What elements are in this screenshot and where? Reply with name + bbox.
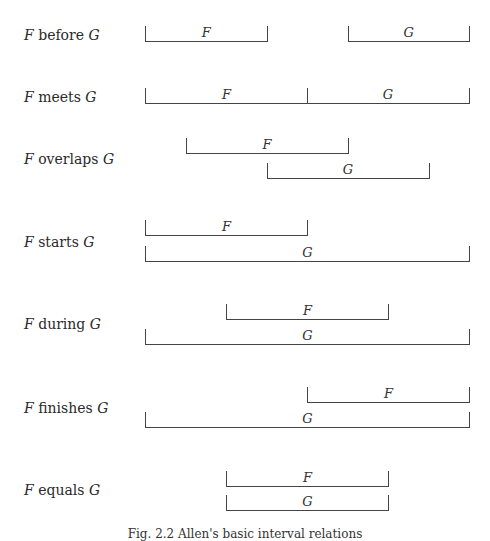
- interval-g-equals: G: [226, 495, 389, 511]
- interval-g-starts: G: [145, 246, 470, 262]
- figure-caption: Fig. 2.2 Allen's basic interval relation…: [0, 527, 490, 541]
- interval-f-overlaps: F: [186, 138, 349, 154]
- relation-label-finishes: F finishes G: [24, 400, 108, 416]
- interval-f-meets: F: [145, 88, 308, 104]
- relation-label-meets: F meets G: [24, 89, 96, 105]
- relation-label-starts: F starts G: [24, 234, 94, 250]
- relation-label-before: F before G: [24, 27, 100, 43]
- interval-f-before: F: [145, 26, 268, 42]
- interval-f-during: F: [226, 304, 389, 320]
- interval-f-equals: F: [226, 471, 389, 487]
- relation-label-overlaps: F overlaps G: [24, 151, 114, 167]
- interval-f-starts: F: [145, 220, 308, 236]
- relation-label-during: F during G: [24, 316, 101, 332]
- interval-f-finishes: F: [307, 387, 470, 403]
- interval-g-during: G: [145, 329, 470, 345]
- interval-g-meets: G: [307, 88, 470, 104]
- interval-g-overlaps: G: [267, 163, 430, 179]
- relation-label-equals: F equals G: [24, 482, 100, 498]
- interval-g-finishes: G: [145, 412, 470, 428]
- interval-g-before: G: [348, 26, 471, 42]
